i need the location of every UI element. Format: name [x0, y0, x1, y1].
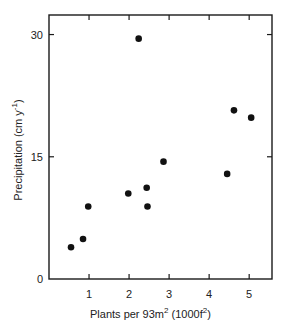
- y-tick-label: 30: [31, 29, 43, 41]
- data-point: [80, 236, 87, 243]
- data-point: [135, 35, 142, 42]
- data-point: [68, 244, 75, 251]
- x-axis-label-unit: (1000f: [168, 308, 202, 320]
- x-tick-label: 2: [126, 288, 132, 300]
- y-axis-label-text: Precipitation (cm y: [12, 110, 24, 200]
- y-tick-label: 0: [37, 273, 43, 285]
- x-axis-label: Plants per 93m2 (1000f2): [90, 306, 211, 320]
- y-axis-label-sup: -1: [10, 103, 19, 110]
- data-point: [143, 184, 150, 191]
- data-point: [224, 171, 231, 178]
- x-tick-label: 5: [246, 288, 252, 300]
- x-tick-label: 4: [206, 288, 212, 300]
- data-point: [231, 107, 238, 114]
- data-point: [85, 203, 92, 210]
- x-tick-label: 3: [166, 288, 172, 300]
- y-tick-label: 15: [31, 151, 43, 163]
- data-point: [144, 203, 151, 210]
- data-point: [248, 114, 255, 121]
- y-axis-label-end: ): [12, 99, 24, 103]
- x-axis-ticks: 12345: [86, 15, 252, 300]
- scatter-chart: 12345 01530: [0, 0, 288, 332]
- x-tick-label: 1: [86, 288, 92, 300]
- x-axis-label-text: Plants per 93m: [90, 308, 164, 320]
- data-point: [160, 158, 167, 165]
- x-axis-label-end: ): [207, 308, 211, 320]
- data-points: [68, 35, 255, 250]
- data-point: [125, 190, 132, 197]
- y-axis-ticks: 01530: [31, 29, 272, 285]
- y-axis-label: Precipitation (cm y-1): [10, 99, 24, 200]
